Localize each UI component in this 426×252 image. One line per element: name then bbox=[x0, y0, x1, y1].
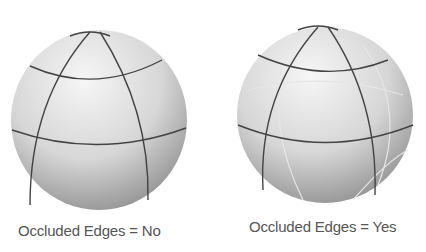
caption-occluded-edges-yes: Occluded Edges = Yes bbox=[249, 218, 396, 235]
figure-occluded-edges-yes: Occluded Edges = Yes bbox=[213, 0, 426, 252]
sphere-wireframe-no-occluded bbox=[0, 0, 213, 252]
caption-occluded-edges-no: Occluded Edges = No bbox=[18, 222, 161, 239]
figure-occluded-edges-no: Occluded Edges = No bbox=[0, 0, 213, 252]
sphere-wireframe-with-occluded bbox=[213, 0, 426, 252]
